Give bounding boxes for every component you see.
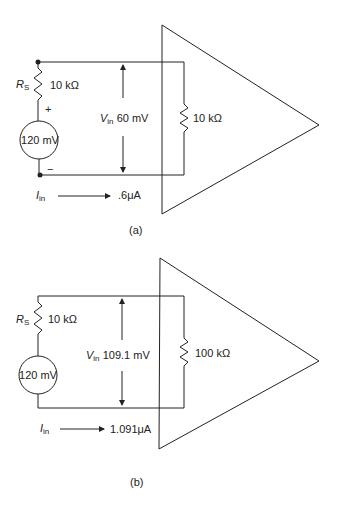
minus-sign-a: −	[47, 163, 53, 175]
load-value-a: 10 kΩ	[193, 112, 222, 124]
load-value-b: 100 kΩ	[195, 347, 230, 359]
rs-label-a: RS	[16, 78, 29, 94]
rs-value-b: 10 kΩ	[48, 313, 77, 325]
caption-b: (b)	[130, 476, 143, 488]
source-label-b: 120 mV	[19, 369, 57, 381]
vin-label-b: Vin 109.1 mV	[86, 349, 150, 365]
iin-label-a: Iin	[36, 189, 45, 205]
node-dot-top-a	[36, 60, 41, 65]
iin-value-a: .6μA	[118, 189, 141, 201]
diagram-b	[19, 258, 319, 449]
circuit-diagrams	[0, 0, 337, 507]
rs-resistor-a	[34, 68, 42, 100]
rs-value-a: 10 kΩ	[50, 79, 79, 91]
plus-sign-a: +	[45, 103, 51, 115]
rs-label-b: RS	[16, 313, 29, 329]
vin-label-a: Vin 60 mV	[100, 112, 148, 128]
caption-a: (a)	[129, 224, 142, 236]
amplifier-triangle-b	[159, 258, 319, 449]
iin-value-b: 1.091μA	[110, 423, 151, 435]
load-resistor-a	[180, 104, 188, 132]
node-dot-bottom-a	[38, 173, 43, 178]
diagram-a	[20, 25, 319, 214]
load-resistor-b	[180, 338, 188, 366]
source-label-a: 120 mV	[21, 134, 59, 146]
iin-label-b: Iin	[40, 422, 49, 438]
rs-resistor-b	[34, 302, 42, 334]
